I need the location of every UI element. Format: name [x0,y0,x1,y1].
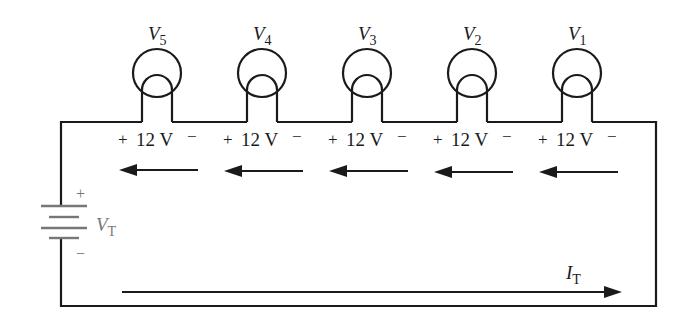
svg-text:12 V: 12 V [451,129,488,150]
bulb-label-v3: V3 [358,23,377,48]
voltage-drop-v1: + 12 V − [538,127,617,150]
bulb-v2 [448,49,496,122]
svg-text:+: + [538,130,548,149]
svg-text:12 V: 12 V [136,129,173,150]
battery-label: VT [96,214,117,239]
svg-text:−: − [607,127,617,146]
svg-text:−: − [292,127,302,146]
circuit-diagram: V5 V4 V3 V2 V1 + 12 V − + 12 V − + 12 V … [0,0,684,325]
svg-text:+: + [118,130,128,149]
voltage-drop-v5: + 12 V − [118,127,197,150]
bulb-v3 [343,49,391,122]
battery-minus: − [76,245,85,262]
bulb-v4 [238,49,286,122]
svg-text:+: + [328,130,338,149]
bulb-label-v4: V4 [253,23,272,48]
bulb-label-v5: V5 [148,23,167,48]
svg-text:12 V: 12 V [241,129,278,150]
bulb-v5 [133,49,181,122]
svg-text:−: − [502,127,512,146]
svg-text:−: − [187,127,197,146]
svg-text:12 V: 12 V [346,129,383,150]
battery-symbol [41,206,87,238]
bulb-filament [247,75,277,122]
bulb-label-v1: V1 [568,23,587,48]
bulb-filament [562,75,592,122]
bulb-globe [133,49,181,97]
bulb-v1 [553,49,601,122]
battery-plus: + [76,185,85,202]
current-arrow [122,286,622,298]
bulb-label-v2: V2 [463,23,482,48]
svg-text:−: − [397,127,407,146]
bulb-filament [457,75,487,122]
voltage-drop-v2: + 12 V − [433,127,512,150]
current-label: IT [565,262,581,287]
bulb-globe [238,49,286,97]
bulb-filament [142,75,172,122]
bulb-globe [343,49,391,97]
svg-text:+: + [433,130,443,149]
svg-text:+: + [223,130,233,149]
svg-text:12 V: 12 V [556,129,593,150]
bulb-globe [448,49,496,97]
bulb-filament [352,75,382,122]
voltage-arrows [119,164,618,178]
voltage-drop-v4: + 12 V − [223,127,302,150]
voltage-drop-v3: + 12 V − [328,127,407,150]
bulb-globe [553,49,601,97]
